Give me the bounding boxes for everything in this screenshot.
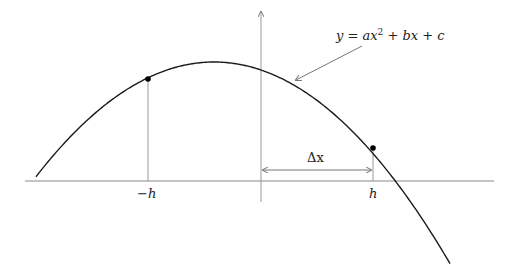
equation-pointer-arrow	[296, 46, 362, 80]
equation-label: y = ax2 + bx + c	[336, 27, 445, 43]
parabola-curve	[36, 62, 450, 264]
neg-h-label: −h	[137, 186, 156, 201]
right-point-marker	[370, 145, 376, 151]
h-label: h	[369, 186, 377, 201]
diagram-canvas: y = ax2 + bx + c Δx −h h	[0, 0, 516, 270]
delta-x-label: Δx	[307, 150, 324, 165]
left-point-marker	[145, 76, 151, 82]
